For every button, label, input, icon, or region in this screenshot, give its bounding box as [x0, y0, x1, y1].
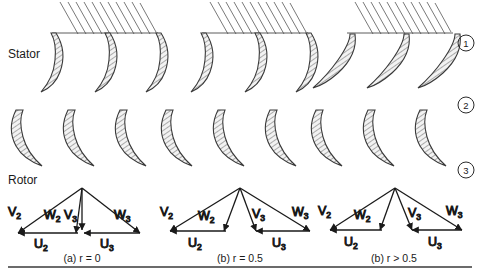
station-marker-2-label: 2 — [463, 100, 468, 111]
rotor-row-label: Rotor — [8, 173, 37, 187]
caption-group-2: (b) r = 0.5 — [217, 252, 263, 264]
station-marker-1-label: 1 — [463, 38, 468, 49]
stator-row-label: Stator — [8, 47, 40, 61]
caption-group-1: (a) r = 0 — [63, 252, 100, 264]
station-marker-3-label: 3 — [463, 165, 468, 176]
turbine-stage-velocity-diagram: Stator Rotor 1 2 — [0, 0, 480, 269]
caption-group-3: (b) r > 0.5 — [371, 252, 417, 264]
